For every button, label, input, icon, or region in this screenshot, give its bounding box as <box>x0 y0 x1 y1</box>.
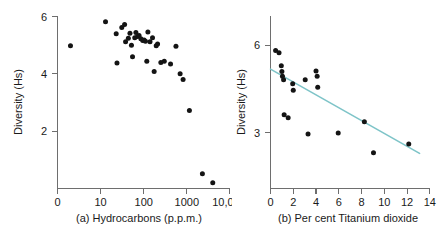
panel-a-y-axis-title: Diversity (Hs) <box>12 69 24 135</box>
panel-b-ytick-6: 6 <box>254 39 260 51</box>
panel-b-xtick-8: 8 <box>358 196 364 208</box>
data-point <box>181 77 186 82</box>
data-point <box>103 19 108 24</box>
data-point <box>315 85 320 90</box>
panel-a-y-ticks <box>52 17 58 132</box>
panel-a-xtick-100: 100 <box>135 196 153 208</box>
data-point <box>168 62 173 67</box>
panel-b-datapoints <box>273 48 411 155</box>
data-point <box>145 29 150 34</box>
data-point <box>291 88 296 93</box>
panel-b-axes <box>271 16 431 189</box>
data-point <box>152 69 157 74</box>
panel-b-xtick-0: 0 <box>267 196 273 208</box>
data-point <box>286 115 291 120</box>
data-point <box>114 60 119 65</box>
panel-b-x-ticks <box>271 189 430 195</box>
data-point <box>155 42 160 47</box>
panel-a-xtick-10000: 10,000 <box>212 196 232 208</box>
panel-b-y-axis-title: Diversity (Hs) <box>235 69 247 135</box>
data-point <box>130 54 135 59</box>
panel-a-hydrocarbons: 6 4 2 0 10 100 1000 10,000 (a) Hydrocarb… <box>0 0 232 230</box>
data-point <box>143 39 148 44</box>
panel-a-xtick-10: 10 <box>94 196 106 208</box>
panel-b-xtick-12: 12 <box>401 196 413 208</box>
data-point <box>210 180 215 185</box>
panel-a-plot: 6 4 2 0 10 100 1000 10,000 (a) Hydrocarb… <box>0 0 232 230</box>
data-point <box>150 35 155 40</box>
data-point <box>406 142 411 147</box>
data-point <box>162 59 167 64</box>
data-point <box>122 22 127 27</box>
data-point <box>279 63 284 68</box>
panel-b-x-axis-title: (b) Per cent Titanium dioxide <box>278 212 418 224</box>
data-point <box>315 74 320 79</box>
data-point <box>126 36 131 41</box>
data-point <box>144 59 149 64</box>
panel-a-ytick-4: 4 <box>41 68 47 80</box>
data-point <box>281 77 286 82</box>
data-point <box>173 44 178 49</box>
panel-a-datapoints <box>68 19 215 185</box>
data-point <box>303 77 308 82</box>
data-point <box>290 81 295 86</box>
panel-a-x-axis-title: (a) Hydrocarbons (p.p.m.) <box>76 212 202 224</box>
data-point <box>277 50 282 55</box>
panel-b-xtick-6: 6 <box>336 196 342 208</box>
data-point <box>200 171 205 176</box>
data-point <box>114 31 119 36</box>
panel-a-ytick-2: 2 <box>41 125 47 137</box>
panel-b-xtick-2: 2 <box>290 196 296 208</box>
data-point <box>371 150 376 155</box>
data-point <box>127 31 132 36</box>
data-point <box>362 119 367 124</box>
panel-b-ytick-3: 3 <box>254 127 260 139</box>
panel-b-xtick-10: 10 <box>378 196 390 208</box>
panel-a-xtick-1000: 1000 <box>175 196 199 208</box>
data-point <box>314 68 319 73</box>
panel-a-x-ticks <box>58 189 230 195</box>
panel-a-xtick-0: 0 <box>54 196 60 208</box>
data-point <box>178 71 183 76</box>
data-point <box>68 43 73 48</box>
data-point <box>336 130 341 135</box>
data-point <box>306 132 311 137</box>
panel-b-plot: 6 3 0 2 4 6 8 10 12 14 (b) Per cent Tita… <box>232 0 439 230</box>
panel-b-y-ticks <box>265 45 271 133</box>
panel-b-titanium-dioxide: 6 3 0 2 4 6 8 10 12 14 (b) Per cent Tita… <box>232 0 439 230</box>
data-point <box>187 108 192 113</box>
panel-b-xtick-14: 14 <box>424 196 436 208</box>
figure-container: 6 4 2 0 10 100 1000 10,000 (a) Hydrocarb… <box>0 0 439 230</box>
data-point <box>279 69 284 74</box>
data-point <box>282 112 287 117</box>
panel-b-xtick-4: 4 <box>313 196 319 208</box>
panel-a-ytick-6: 6 <box>41 11 47 23</box>
data-point <box>129 43 134 48</box>
